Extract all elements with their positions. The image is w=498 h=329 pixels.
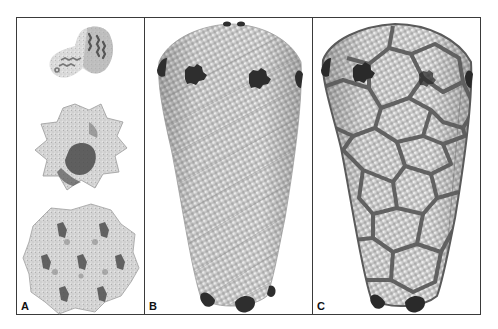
panel-label-a: A — [21, 301, 29, 312]
capsid-cone — [145, 18, 313, 316]
hexagonal-lattice — [23, 204, 139, 314]
figure-frame: A — [16, 17, 481, 315]
panel-a: A — [17, 18, 145, 314]
hexamer-structure — [35, 104, 127, 190]
panel-a-illustration — [17, 18, 145, 316]
panel-label-c: C — [317, 301, 325, 312]
monomer-structure — [50, 26, 113, 77]
capsid-cone-network — [313, 18, 481, 316]
panel-label-b: B — [149, 301, 157, 312]
panel-b: B — [145, 18, 313, 314]
panel-b-illustration — [145, 18, 313, 316]
panel-c: C — [313, 18, 481, 314]
panel-c-illustration — [313, 18, 481, 316]
